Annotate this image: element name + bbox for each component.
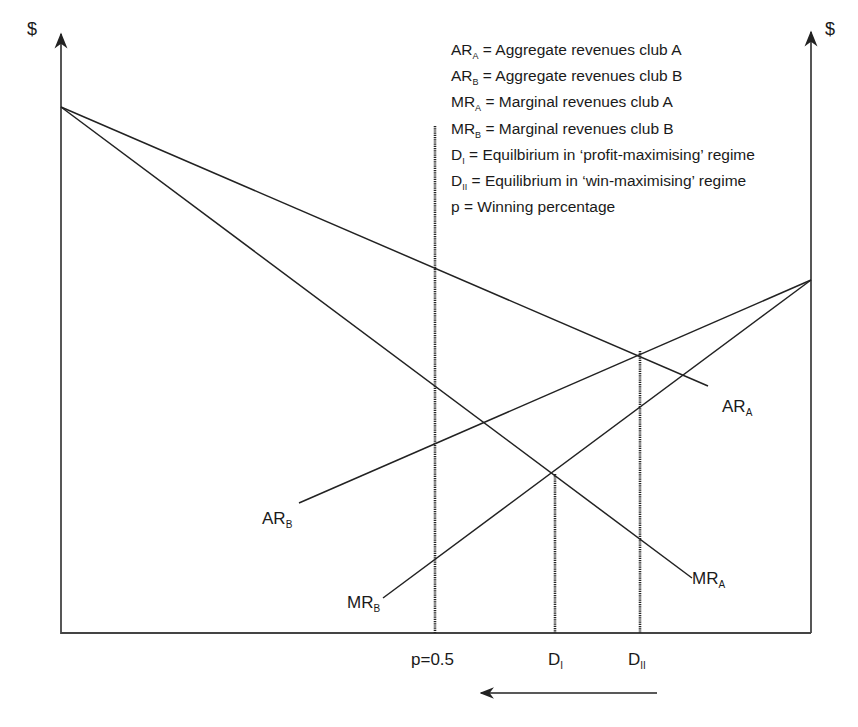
legend-item: ARA = Aggregate revenues club A: [451, 40, 755, 66]
d1-label: DI: [548, 651, 563, 671]
ar-a-label: ARA: [722, 398, 752, 418]
legend-item: MRB = Marginal revenues club B: [451, 119, 755, 145]
mr-b-label: MRB: [347, 594, 380, 614]
left-axis-label: $: [27, 20, 37, 38]
mr-a-label: MRA: [692, 570, 725, 590]
right-axis-label: $: [825, 20, 835, 38]
legend-item: DII = Equilibrium in ‘win-maximising’ re…: [451, 171, 755, 197]
d2-label: DII: [628, 651, 646, 671]
legend-item: p = Winning percentage: [451, 197, 755, 223]
legend: ARA = Aggregate revenues club A ARB = Ag…: [451, 40, 755, 223]
legend-item: ARB = Aggregate revenues club B: [451, 66, 755, 92]
ar-b-label: ARB: [262, 510, 292, 530]
legend-item: DI = Equilbirium in ‘profit-maximising’ …: [451, 145, 755, 171]
legend-item: MRA = Marginal revenues club A: [451, 92, 755, 118]
p-half-label: p=0.5: [411, 651, 454, 668]
